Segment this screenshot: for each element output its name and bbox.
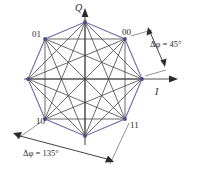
- constellation-svg: Q I: [0, 0, 198, 169]
- vertex-p0: [140, 77, 144, 81]
- vertex-p6: [83, 134, 87, 138]
- phase-135-extension-left: [17, 122, 41, 139]
- phase-135-annotation: Δφ = 135°: [13, 122, 129, 164]
- phase-45-arrowhead-bottom: [161, 59, 167, 68]
- i-axis-arrowhead: [169, 76, 178, 83]
- phase-45-extension-bottom: [145, 70, 166, 76]
- symbol-label-11: 11: [130, 120, 139, 130]
- vertex-p1: [123, 37, 127, 41]
- vertex-p3: [43, 37, 47, 41]
- symbol-label-01: 01: [32, 29, 41, 39]
- phase-135-extension-right: [110, 123, 129, 164]
- vertex-p4: [26, 77, 30, 81]
- vertex-p2: [83, 20, 87, 24]
- phase-45-annotation: Δφ = 45°: [131, 27, 181, 76]
- constellation-figure: Q I: [0, 0, 198, 169]
- phase-45-label: Δφ = 45°: [150, 39, 181, 49]
- q-axis-label: Q: [75, 2, 83, 13]
- phase-135-label: Δφ = 135°: [23, 148, 59, 158]
- phase-135-arrowhead-left: [13, 132, 22, 139]
- i-axis-label: I: [154, 86, 159, 97]
- vertex-p7: [123, 117, 127, 121]
- symbol-label-00: 00: [122, 27, 132, 37]
- q-axis-arrowhead: [82, 8, 89, 17]
